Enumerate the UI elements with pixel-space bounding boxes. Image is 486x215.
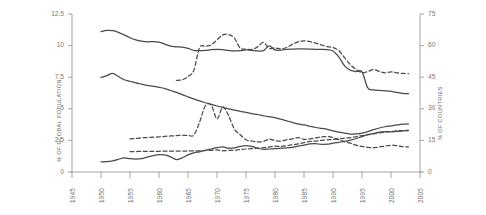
series-upper-solid bbox=[101, 30, 408, 93]
series-middle-solid bbox=[101, 73, 408, 134]
chart-container: % OF GLOBAL POPULATION % OF COUNTRIES 12… bbox=[0, 0, 486, 215]
series-lower-dashed-high bbox=[130, 103, 408, 147]
plot-area bbox=[0, 0, 486, 215]
series-lower-dashed-low bbox=[130, 130, 408, 151]
series-upper-dashed bbox=[176, 34, 408, 80]
